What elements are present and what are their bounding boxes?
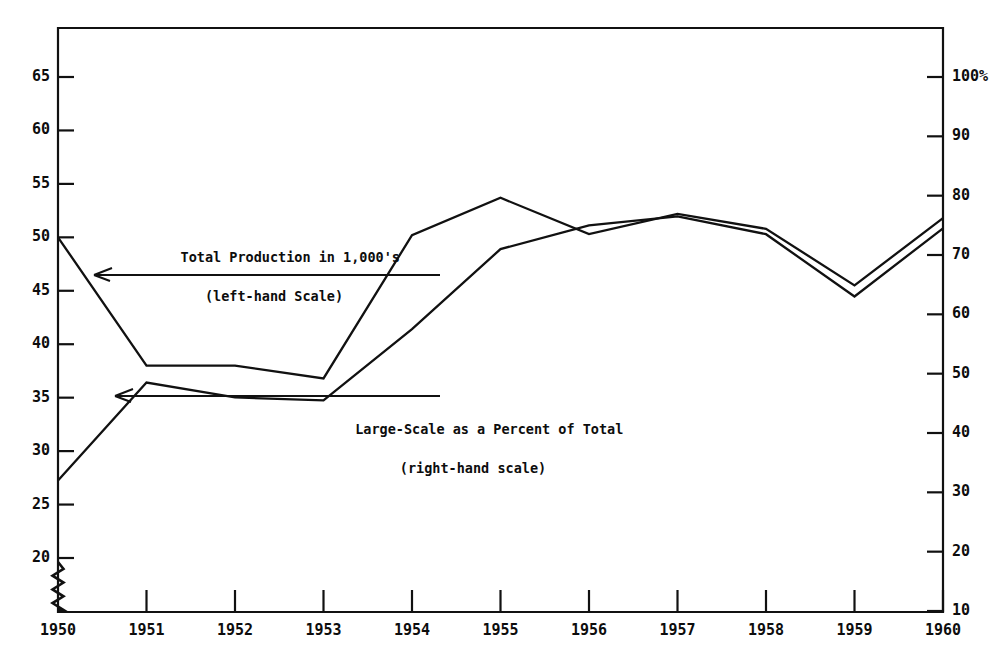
y-axis-left-tick-label: 35 [6, 388, 50, 406]
y-axis-right-tick-label: 80 [952, 186, 1002, 204]
annotation-total-production: Total Production in 1,000's (left-hand S… [104, 228, 444, 345]
y-axis-right-tick-label: 60 [952, 304, 1002, 322]
y-axis-left-tick-label: 55 [6, 174, 50, 192]
y-axis-left-tick-label: 20 [6, 548, 50, 566]
annotation-large-scale-percent: Large-Scale as a Percent of Total (right… [258, 400, 688, 517]
annotation-total-production-line1: Total Production in 1,000's [181, 249, 400, 265]
y-axis-left-tick-label: 45 [6, 281, 50, 299]
x-axis-tick-label: 1954 [367, 621, 457, 639]
x-axis-tick-label: 1957 [633, 621, 723, 639]
y-axis-right-tick-label: 20 [952, 542, 1002, 560]
y-axis-left-tick-label: 65 [6, 67, 50, 85]
y-axis-left-tick-label: 30 [6, 441, 50, 459]
annotation-large-scale-percent-line2: (right-hand scale) [258, 459, 688, 479]
y-axis-right-ticks [927, 77, 943, 611]
y-axis-right-tick-label: 90 [952, 126, 1002, 144]
y-axis-right-tick-label: 70 [952, 245, 1002, 263]
y-axis-right-tick-label: 30 [952, 482, 1002, 500]
annotation-large-scale-percent-line1: Large-Scale as a Percent of Total [355, 421, 623, 437]
x-axis-tick-label: 1953 [279, 621, 369, 639]
x-axis-tick-label: 1958 [721, 621, 811, 639]
x-axis-tick-label: 1951 [102, 621, 192, 639]
y-axis-left-tick-label: 60 [6, 120, 50, 138]
y-axis-right-tick-label: 50 [952, 364, 1002, 382]
y-axis-right-tick-label: 100% [952, 67, 1002, 85]
x-axis-ticks [147, 590, 944, 612]
y-axis-right-tick-label: 10 [952, 601, 1002, 619]
x-axis-tick-label: 1959 [810, 621, 900, 639]
annotation-total-production-line2: (left-hand Scale) [104, 287, 444, 307]
x-axis-tick-label: 1950 [13, 621, 103, 639]
y-axis-right-tick-label: 40 [952, 423, 1002, 441]
y-axis-left-ticks [58, 77, 74, 558]
y-axis-left-tick-label: 25 [6, 495, 50, 513]
y-axis-left-tick-label: 40 [6, 334, 50, 352]
x-axis-tick-label: 1952 [190, 621, 280, 639]
x-axis-tick-label: 1955 [456, 621, 546, 639]
chart-figure: 20253035404550556065 1020304050607080901… [0, 0, 1002, 664]
y-axis-left-tick-label: 50 [6, 227, 50, 245]
x-axis-tick-label: 1956 [544, 621, 634, 639]
x-axis-tick-label: 1960 [898, 621, 988, 639]
